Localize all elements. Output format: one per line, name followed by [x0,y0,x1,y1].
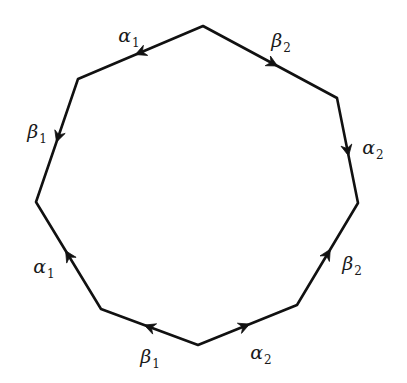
label-beta1-bottom: β1 [140,347,160,366]
label-symbol: β [342,252,353,274]
label-symbol: α [33,255,46,277]
label-symbol: α [118,24,131,46]
octagon-diagram [0,0,407,383]
octagon-outline [36,26,358,345]
label-subscript: 2 [376,148,384,162]
label-beta1-left: β1 [27,122,47,141]
label-symbol: α [250,341,263,363]
label-beta2-right: β2 [342,254,362,273]
label-alpha1-top: α1 [118,26,139,45]
label-subscript: 1 [152,357,160,371]
label-symbol: β [271,29,282,51]
label-alpha2-bottom: α2 [250,343,271,362]
label-alpha1-lower: α1 [33,257,54,276]
edge-arrows [55,45,352,334]
label-subscript: 1 [47,267,55,281]
label-subscript: 1 [39,132,47,146]
label-subscript: 2 [264,353,272,367]
label-symbol: β [140,345,151,367]
label-subscript: 2 [354,264,362,278]
label-subscript: 1 [132,36,140,50]
label-symbol: β [27,120,38,142]
label-beta2-top: β2 [271,31,291,50]
label-subscript: 2 [283,41,291,55]
label-alpha2-right: α2 [362,138,383,157]
label-symbol: α [362,136,375,158]
